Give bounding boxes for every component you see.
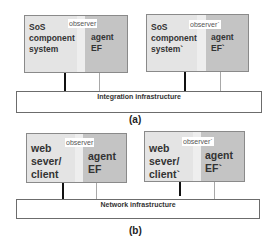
integration-infrastructure-bar: Integration infrastructure [16, 91, 262, 113]
node-b-left: web sever/ client agent EF observer [26, 133, 127, 183]
system-label: web sever/ client [31, 142, 61, 181]
agent-link [96, 183, 97, 199]
infrastructure-label: Integration infrastructure [97, 93, 181, 100]
agent-link [214, 182, 215, 199]
observer-label: observer [68, 19, 97, 28]
panel-caption: (b) [129, 225, 142, 236]
system-label: web sever/ client` [149, 142, 180, 181]
system-link [179, 182, 181, 196]
observer-label: observer` [189, 20, 221, 29]
agent-label: agent EF [88, 150, 116, 176]
system-link [64, 73, 66, 91]
agent-link [99, 73, 100, 91]
infrastructure-label: Network infrastructure [100, 201, 175, 208]
panel-caption: (a) [129, 114, 141, 125]
observer-label: observer [65, 138, 94, 147]
system-link [184, 72, 186, 91]
node-b-right: web sever/ client` agent EF` observer` [144, 131, 245, 182]
system-link [62, 183, 64, 199]
agent-label: agent EF` [211, 32, 234, 54]
node-a-left: SoS component system agent EF observer [24, 15, 128, 73]
agent-label: agent EF [91, 32, 114, 54]
agent-link [220, 72, 221, 91]
network-infrastructure-bar: Network infrastructure [16, 199, 260, 219]
node-a-right: SoS component system` agent EF` observer… [146, 14, 249, 72]
agent-label: agent EF` [205, 149, 233, 175]
observer-label: observer` [182, 137, 214, 146]
